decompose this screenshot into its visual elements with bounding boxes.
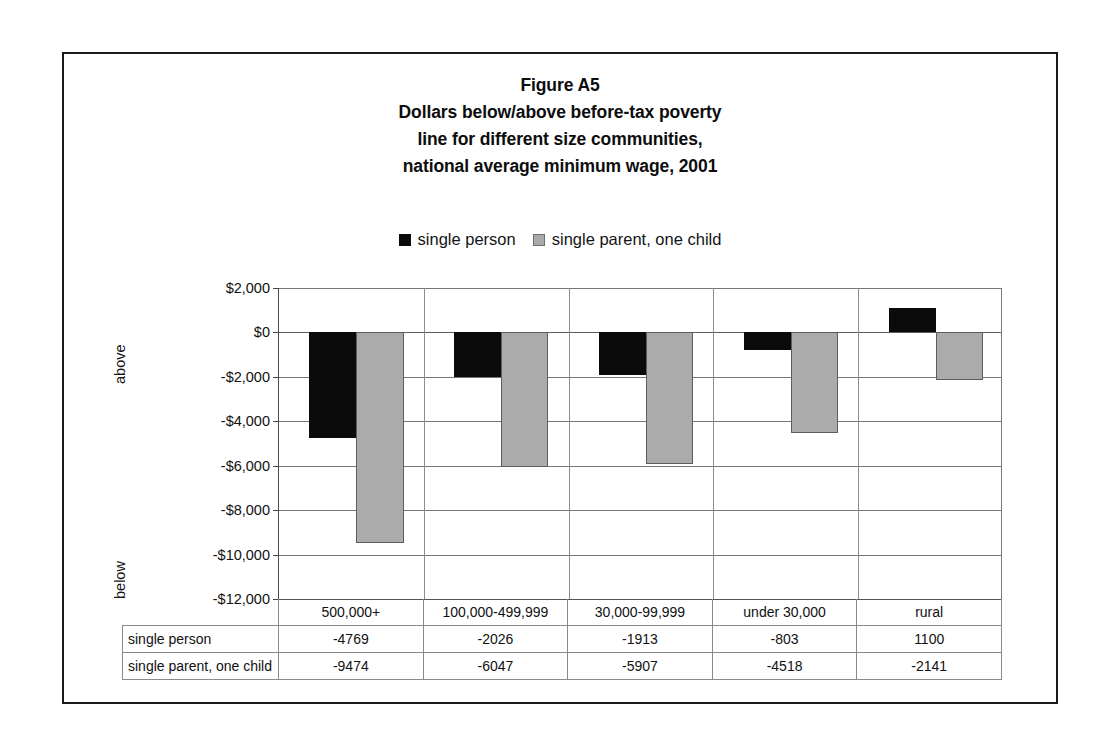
category-separator — [858, 288, 859, 599]
y-tick-mark--2000 — [273, 377, 279, 378]
table-cell-r0-c0: -4769 — [279, 626, 424, 653]
title-line-4: national average minimum wage, 2001 — [64, 153, 1056, 180]
y-tick-label-0: $0 — [254, 324, 270, 340]
table-col-header-2: 30,000-99,999 — [568, 599, 713, 626]
table-row: single parent, one child -9474 -6047 -59… — [123, 653, 1002, 680]
data-table: 500,000+ 100,000-499,999 30,000-99,999 u… — [122, 599, 1002, 680]
category-separator — [713, 288, 714, 599]
legend-entry-single-parent-one-child: single parent, one child — [533, 230, 722, 249]
table-row-label-single-parent-one-child: single parent, one child — [123, 653, 279, 680]
y-tick-mark-0 — [273, 332, 279, 333]
bar-0-0 — [309, 332, 356, 438]
y-tick-label--4000: -$4,000 — [221, 413, 270, 429]
y-tick-label--10000: -$10,000 — [213, 547, 270, 563]
table-row: single person -4769 -2026 -1913 -803 110… — [123, 626, 1002, 653]
table-cell-r0-c2: -1913 — [568, 626, 713, 653]
y-tick-label--8000: -$8,000 — [221, 502, 270, 518]
table-cell-r0-c3: -803 — [712, 626, 857, 653]
bar-2-1 — [646, 332, 693, 463]
table-col-header-4: rural — [857, 599, 1002, 626]
axis-label-above: above — [112, 344, 128, 384]
y-tick-mark--8000 — [273, 510, 279, 511]
bar-3-0 — [744, 332, 791, 350]
figure-frame: Figure A5 Dollars below/above before-tax… — [62, 52, 1058, 704]
chart-legend: single person single parent, one child — [64, 230, 1056, 249]
chart-title: Figure A5 Dollars below/above before-tax… — [64, 72, 1056, 180]
axis-label-below: below — [112, 561, 128, 599]
y-tick-mark--10000 — [273, 555, 279, 556]
plot-area: $2,000$0-$2,000-$4,000-$6,000-$8,000-$10… — [278, 288, 1002, 599]
category-separator — [424, 288, 425, 599]
table-cell-r1-c4: -2141 — [857, 653, 1002, 680]
bar-4-1 — [936, 332, 983, 380]
bar-2-0 — [599, 332, 646, 374]
y-tick-label--2000: -$2,000 — [221, 369, 270, 385]
bar-4-0 — [889, 308, 936, 332]
category-separator — [569, 288, 570, 599]
table-col-header-1: 100,000-499,999 — [423, 599, 568, 626]
table-cell-r1-c3: -4518 — [712, 653, 857, 680]
gridline-2000 — [279, 288, 1001, 289]
legend-entry-single-person: single person — [399, 230, 516, 249]
table-corner-cell — [123, 599, 279, 626]
title-line-1: Figure A5 — [64, 72, 1056, 99]
bar-0-1 — [356, 332, 403, 542]
black-square-icon — [399, 234, 411, 246]
y-tick-label--6000: -$6,000 — [221, 458, 270, 474]
table-col-header-0: 500,000+ — [279, 599, 424, 626]
table-cell-r0-c4: 1100 — [857, 626, 1002, 653]
table-cell-r0-c1: -2026 — [423, 626, 568, 653]
title-line-3: line for different size communities, — [64, 126, 1056, 153]
plot-wrap: $2,000$0-$2,000-$4,000-$6,000-$8,000-$10… — [278, 288, 1002, 599]
legend-label-single-person: single person — [418, 230, 516, 249]
table-col-header-3: under 30,000 — [712, 599, 857, 626]
bar-1-1 — [501, 332, 548, 466]
gridline--10000 — [279, 555, 1001, 556]
table-cell-r1-c2: -5907 — [568, 653, 713, 680]
bar-1-0 — [454, 332, 501, 377]
y-tick-label-2000: $2,000 — [226, 280, 270, 296]
table-cell-r1-c0: -9474 — [279, 653, 424, 680]
bar-3-1 — [791, 332, 838, 432]
table-row-label-single-person: single person — [123, 626, 279, 653]
y-tick-mark-2000 — [273, 288, 279, 289]
table-header-row: 500,000+ 100,000-499,999 30,000-99,999 u… — [123, 599, 1002, 626]
legend-label-single-parent-one-child: single parent, one child — [552, 230, 722, 249]
title-line-2: Dollars below/above before-tax poverty — [64, 99, 1056, 126]
table-cell-r1-c1: -6047 — [423, 653, 568, 680]
y-tick-mark--4000 — [273, 421, 279, 422]
data-table-body: 500,000+ 100,000-499,999 30,000-99,999 u… — [123, 599, 1002, 680]
y-tick-mark--6000 — [273, 466, 279, 467]
gray-square-icon — [533, 234, 545, 246]
